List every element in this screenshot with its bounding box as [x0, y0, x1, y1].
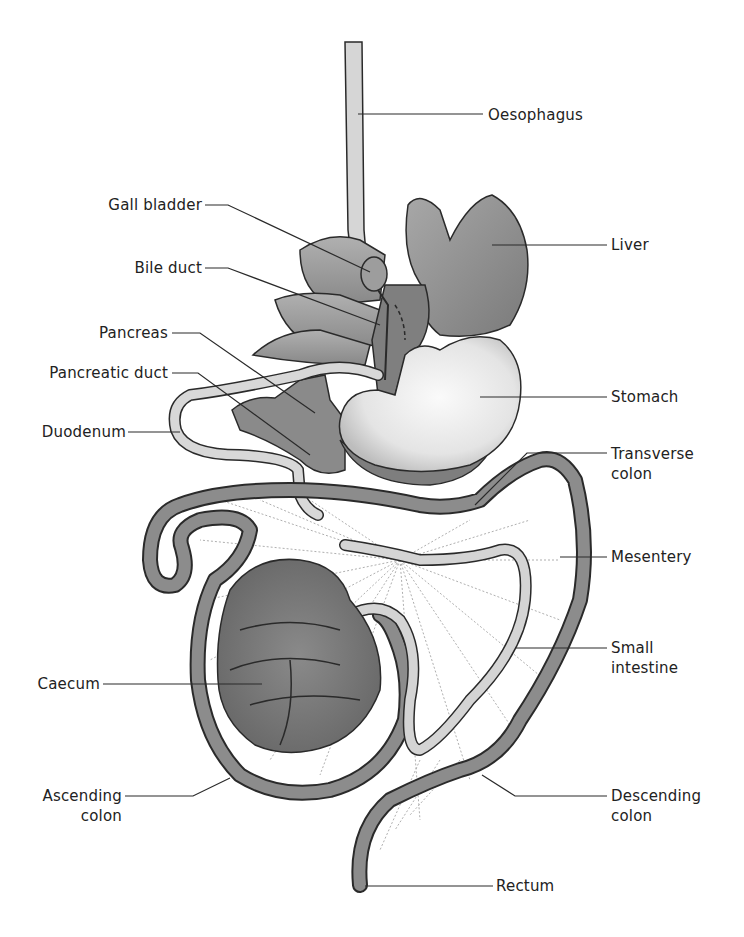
- label-stomach: Stomach: [611, 387, 679, 407]
- label-oesophagus: Oesophagus: [488, 105, 583, 125]
- label-liver: Liver: [611, 235, 649, 255]
- liver-left-lobes: [253, 237, 385, 365]
- label-caecum: Caecum: [38, 674, 100, 694]
- label-descending-colon: Descending colon: [611, 786, 701, 826]
- label-pancreas: Pancreas: [99, 323, 168, 343]
- label-bile-duct: Bile duct: [134, 258, 202, 278]
- gall-bladder: [361, 257, 387, 291]
- caecum: [218, 559, 381, 752]
- label-ascending-colon: Ascending colon: [42, 786, 122, 826]
- label-gall-bladder: Gall bladder: [108, 195, 202, 215]
- label-pancreatic-duct: Pancreatic duct: [49, 363, 168, 383]
- label-rectum: Rectum: [496, 876, 554, 896]
- label-small-intestine: Small intestine: [611, 638, 678, 678]
- label-mesentery: Mesentery: [611, 547, 692, 567]
- label-transverse-colon: Transverse colon: [611, 444, 694, 484]
- label-duodenum: Duodenum: [42, 422, 126, 442]
